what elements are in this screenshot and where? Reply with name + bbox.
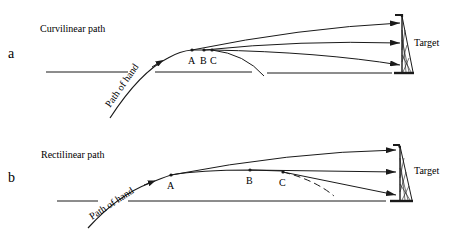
panel-a-point-a: A: [188, 55, 196, 66]
panel-b-hand-arrow-icon: [144, 182, 152, 185]
panel-b-hand-label: Path of hand: [87, 185, 135, 222]
panel-a-title: Curvilinear path: [40, 23, 105, 34]
panel-a: Curvilinear path a Path of hand A B C: [8, 15, 439, 118]
panel-a-letter: a: [8, 46, 15, 61]
panel-b-target-icon: [390, 145, 413, 201]
panel-a-baseline: [46, 72, 392, 73]
panel-a-point-c: C: [210, 55, 217, 66]
panel-a-target-label: Target: [414, 37, 439, 48]
panel-b-title: Rectilinear path: [41, 149, 105, 160]
panel-b-letter: b: [8, 170, 15, 185]
panel-b-point-a: A: [167, 180, 175, 191]
panel-a-hand-arrow-icon: [152, 62, 160, 67]
diagram-canvas: Curvilinear path a Path of hand A B C: [0, 0, 456, 244]
panel-a-point-b: B: [200, 55, 207, 66]
panel-a-trajectories: [192, 23, 400, 65]
panel-b-point-b: B: [246, 175, 253, 186]
panel-b-target-label: Target: [414, 165, 439, 176]
panel-b-dashed-continuation: [283, 172, 334, 196]
panel-b: Rectilinear path b Path of hand A B C: [8, 145, 439, 228]
panel-b-point-c: C: [279, 177, 286, 188]
